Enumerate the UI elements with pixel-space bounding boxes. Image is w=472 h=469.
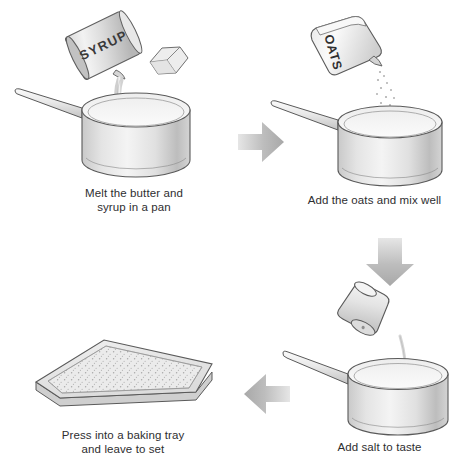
step-3-illustration (283, 278, 448, 435)
arrow-left-icon (244, 374, 290, 414)
arrow-down-icon (366, 238, 414, 286)
saucepan-step-3 (283, 351, 448, 435)
step-1-illustration: SYRUP (15, 9, 190, 177)
saucepan-step-1 (15, 89, 190, 177)
saucepan-handle (271, 101, 338, 130)
step-4-illustration (36, 340, 212, 406)
caption-step-2: Add the oats and mix well (282, 193, 467, 207)
salt-shaker-icon (334, 278, 394, 339)
oats-bag-icon: OATS (311, 17, 382, 75)
butter-cube-icon (150, 47, 188, 74)
syrup-tin-icon: SYRUP (63, 9, 146, 81)
caption-step-3: Add salt to taste (292, 440, 467, 454)
step-2-illustration: OATS (271, 17, 442, 186)
saucepan-handle (283, 351, 348, 384)
recipe-flow-diagram: SYRUP OATS (0, 0, 472, 469)
caption-step-4: Press into a baking tray and leave to se… (18, 428, 228, 456)
saucepan-step-2 (271, 101, 442, 186)
saucepan-handle (15, 89, 82, 118)
oat-mixture (48, 346, 202, 393)
arrow-right-icon (238, 122, 284, 162)
caption-step-1: Melt the butter and syrup in a pan (34, 186, 234, 214)
